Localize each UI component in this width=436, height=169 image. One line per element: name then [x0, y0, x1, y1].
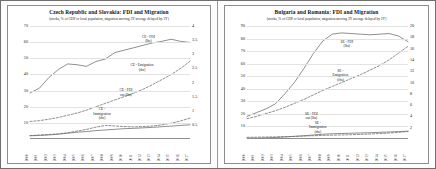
gridline — [30, 74, 190, 75]
y-axis-tick-left: 60 — [24, 40, 28, 44]
x-axis-ticks-right: 2000200120022003200420052006200720082009… — [247, 141, 408, 155]
chart-title-right: Bulgaria and Romania: FDI and Migration — [225, 9, 428, 16]
y-axis-tick-right: 12 — [410, 69, 414, 73]
x-axis-tick: 2013 — [367, 155, 371, 162]
x-axis-tick: 2016 — [177, 155, 181, 162]
x-axis-tick: 2005 — [73, 155, 77, 162]
chart-subtitle-right: (stocks, % of GDP or local population, m… — [225, 16, 428, 22]
y-axis-tick-right: 14 — [410, 58, 414, 62]
y-axis-tick-right: 2 — [410, 126, 412, 130]
data-series-line — [30, 118, 190, 136]
y-axis-tick-right: 4 — [410, 114, 412, 118]
y-axis-tick-right: 10 — [410, 81, 414, 85]
y-axis-tick-left: 50 — [241, 74, 245, 78]
y-axis-tick-left: 60 — [241, 62, 245, 66]
y-axis-tick-right: 1.5 — [192, 95, 197, 99]
x-axis-tick: 2014 — [158, 155, 162, 162]
y-axis-tick-left: 80 — [241, 37, 245, 41]
gridline — [247, 76, 408, 77]
gridline — [30, 26, 190, 27]
x-axis-tick: 2006 — [83, 155, 87, 162]
y-axis-tick-right: 16 — [410, 47, 414, 51]
x-axis-tick: 2001 — [253, 155, 257, 162]
y-axis-tick-right: 8 — [410, 92, 412, 96]
gridline — [247, 51, 408, 52]
chart-subtitle-left: (stocks, % of GDP or local population, m… — [8, 16, 210, 22]
y-axis-tick-left: 10 — [241, 124, 245, 128]
x-axis-tick: 2017 — [186, 155, 190, 162]
x-axis-ticks-left: 2000200120022003200420052006200720082009… — [30, 141, 190, 155]
x-axis-tick: 2006 — [300, 155, 304, 162]
gridline — [247, 89, 408, 90]
chart-title-block-right: Bulgaria and Romania: FDI and Migration … — [225, 9, 428, 22]
y-axis-tick-right: 3.5 — [192, 38, 197, 42]
x-axis-tick: 2011 — [130, 155, 134, 162]
x-axis-tick: 2012 — [139, 155, 143, 162]
chart-frame-left: Czech Republic and Slovakia: FDI and Mig… — [7, 5, 211, 164]
x-axis-line — [30, 138, 190, 139]
x-axis-tick: 2008 — [319, 155, 323, 162]
series-layer-right — [247, 26, 408, 139]
plot-area-left: 102030405060700.511.522.533.54CE - FDI(l… — [30, 26, 190, 139]
chart-panel-bulgaria-romania: Bulgaria and Romania: FDI and Migration … — [218, 1, 435, 168]
y-axis-tick-left: 70 — [241, 49, 245, 53]
gridline — [30, 123, 190, 124]
x-axis-tick: 2016 — [395, 155, 399, 162]
x-axis-tick: 2008 — [102, 155, 106, 162]
x-axis-tick: 2009 — [111, 155, 115, 162]
x-axis-tick: 2002 — [262, 155, 266, 162]
x-axis-tick: 2010 — [338, 155, 342, 162]
figure-container: Czech Republic and Slovakia: FDI and Mig… — [0, 0, 436, 169]
y-axis-tick-left: 70 — [24, 24, 28, 28]
y-axis-tick-right: 2.5 — [192, 66, 197, 70]
gridline — [30, 107, 190, 108]
y-axis-tick-left: 10 — [24, 121, 28, 125]
gridline — [247, 101, 408, 102]
gridline — [247, 64, 408, 65]
x-axis-tick: 2017 — [404, 155, 408, 162]
y-axis-tick-left: 20 — [241, 112, 245, 116]
y-axis-tick-left: 90 — [241, 24, 245, 28]
x-axis-tick: 2013 — [149, 155, 153, 162]
x-axis-tick: 2004 — [64, 155, 68, 162]
y-axis-tick-left: 40 — [24, 72, 28, 76]
y-axis-tick-left: 20 — [24, 105, 28, 109]
x-axis-tick: 2012 — [357, 155, 361, 162]
gridline — [30, 42, 190, 43]
gridline — [247, 126, 408, 127]
x-axis-tick: 2000 — [26, 155, 30, 162]
y-axis-tick-left: 50 — [24, 56, 28, 60]
x-axis-tick: 2014 — [376, 155, 380, 162]
y-axis-tick-right: 18 — [410, 35, 414, 39]
x-axis-tick: 2007 — [310, 155, 314, 162]
data-series-line — [30, 39, 190, 93]
x-axis-tick: 2007 — [92, 155, 96, 162]
chart-frame-right: Bulgaria and Romania: FDI and Migration … — [224, 5, 429, 164]
y-axis-tick-right: 1 — [192, 109, 194, 113]
x-axis-tick: 2003 — [55, 155, 59, 162]
x-axis-tick: 2002 — [45, 155, 49, 162]
x-axis-tick: 2011 — [348, 155, 352, 162]
x-axis-tick: 2000 — [243, 155, 247, 162]
gridline — [247, 39, 408, 40]
y-axis-tick-left: 30 — [24, 89, 28, 93]
y-axis-tick-right: 2 — [192, 81, 194, 85]
x-axis-tick: 2015 — [168, 155, 172, 162]
y-axis-tick-right: 4 — [192, 24, 194, 28]
y-axis-tick-left: 30 — [241, 99, 245, 103]
y-axis-tick-right: 20 — [410, 24, 414, 28]
y-axis-tick-left: 40 — [241, 87, 245, 91]
chart-title-block-left: Czech Republic and Slovakia: FDI and Mig… — [8, 9, 210, 22]
plot-area-right: 1020304050607080902468101214161820SE - F… — [247, 26, 408, 139]
chart-panel-czech-slovakia: Czech Republic and Slovakia: FDI and Mig… — [1, 1, 218, 168]
gridline — [247, 114, 408, 115]
y-axis-tick-right: 3 — [192, 52, 194, 56]
data-series-line — [247, 46, 408, 118]
x-axis-tick: 2009 — [329, 155, 333, 162]
chart-title-left: Czech Republic and Slovakia: FDI and Mig… — [8, 9, 210, 16]
gridline — [30, 58, 190, 59]
x-axis-tick: 2015 — [385, 155, 389, 162]
data-series-line — [247, 33, 408, 116]
x-axis-tick: 2004 — [281, 155, 285, 162]
x-axis-tick: 2001 — [36, 155, 40, 162]
